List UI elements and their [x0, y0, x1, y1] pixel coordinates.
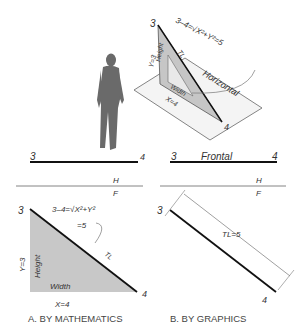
b-extension-line-1	[165, 190, 185, 216]
a-top-point-4: 4	[140, 152, 145, 162]
b-point-3: 3	[157, 205, 163, 216]
caption-b: B. BY GRAPHICS	[170, 313, 246, 324]
b-tl-eq: TL=5	[222, 230, 241, 239]
a-top-point-3: 3	[30, 151, 36, 162]
a-tl: TL	[103, 250, 114, 261]
b-top-point-4: 4	[272, 151, 278, 162]
b-frontal-label: Frontal	[201, 151, 233, 162]
iso-point-3: 3	[150, 18, 156, 29]
a-leader-curve	[95, 223, 102, 243]
panel-a-frontal-view: 3 4 H F	[16, 151, 145, 198]
a-formula-line1: 3–4=√X²+Y²	[52, 205, 95, 214]
a-height: Height	[33, 254, 42, 278]
b-fold-h: H	[256, 176, 262, 185]
caption-a: A. BY MATHEMATICS	[28, 313, 123, 324]
human-figure	[97, 54, 124, 151]
a-fold-f: F	[113, 189, 119, 198]
iso-formula: 3–4=√X²+Y²=5	[174, 16, 225, 48]
a-y-eq: Y=3	[18, 257, 27, 272]
a-formula-line2: =5	[77, 221, 87, 230]
diagram-canvas: 3 4 3–4=√X²+Y²=5 TL Height Width Y=3 X=4…	[0, 0, 302, 333]
a-point-4: 4	[142, 289, 147, 299]
a-fold-h: H	[113, 176, 119, 185]
b-fold-f: F	[256, 189, 262, 198]
b-tl-line	[170, 210, 276, 292]
panel-b-frontal-view: 3 Frontal 4 H F	[160, 151, 286, 198]
a-x-eq: X=4	[54, 300, 70, 309]
isometric-illustration: 3 4 3–4=√X²+Y²=5 TL Height Width Y=3 X=4…	[134, 16, 262, 140]
b-top-point-3: 3	[171, 151, 177, 162]
panel-a-math: 3 4 3–4=√X²+Y² =5 TL Height Width Y=3 X=…	[18, 205, 147, 324]
a-point-3: 3	[18, 205, 24, 216]
iso-point-4: 4	[224, 122, 229, 132]
b-point-4: 4	[262, 295, 267, 305]
a-width: Width	[50, 282, 71, 291]
iso-y-eq: Y=3	[147, 54, 157, 68]
panel-b-graphics: 3 4 TL=5 B. BY GRAPHICS	[157, 190, 294, 324]
